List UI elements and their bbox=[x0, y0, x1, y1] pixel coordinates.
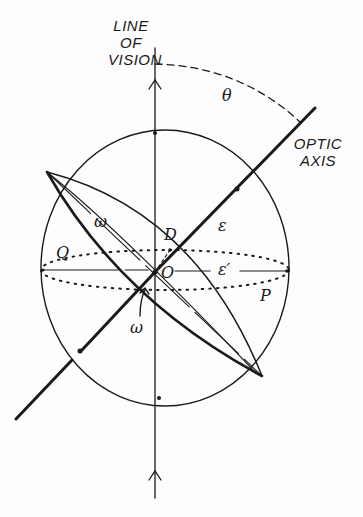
O-label: O bbox=[161, 265, 174, 281]
P-label: P bbox=[260, 288, 271, 304]
omega-lower-label: ω bbox=[130, 320, 143, 336]
epsilon-label: ε bbox=[218, 218, 227, 234]
point-Q bbox=[42, 269, 45, 272]
omega-upper-label: ω bbox=[94, 214, 107, 230]
line-of-vision-word-3: VISION bbox=[108, 52, 154, 67]
optic-axis-label: OPTIC AXIS bbox=[290, 136, 346, 168]
optic-axis-word-2: AXIS bbox=[290, 153, 346, 168]
optic-axis-word-1: OPTIC bbox=[290, 136, 346, 151]
epsilon-prime-label: ε′ bbox=[218, 262, 230, 278]
point-top bbox=[153, 131, 157, 135]
line-of-vision-word-2: OF bbox=[108, 35, 154, 50]
ellipsoid-diagram bbox=[0, 0, 363, 517]
point-epsilon bbox=[235, 187, 240, 192]
point-lower-axis bbox=[78, 349, 83, 354]
D-label: D bbox=[164, 227, 177, 243]
Q-label: Q bbox=[56, 245, 69, 261]
optic-axis-lower bbox=[82, 272, 155, 350]
line-of-vision-word-1: LINE bbox=[108, 18, 154, 33]
theta-label: θ bbox=[222, 88, 232, 104]
optic-axis-outer bbox=[16, 360, 72, 419]
point-D bbox=[168, 248, 172, 252]
point-bottom bbox=[157, 396, 161, 400]
point-P bbox=[285, 269, 289, 273]
line-of-vision-label: LINE OF VISION bbox=[108, 18, 154, 67]
point-O bbox=[153, 270, 158, 275]
